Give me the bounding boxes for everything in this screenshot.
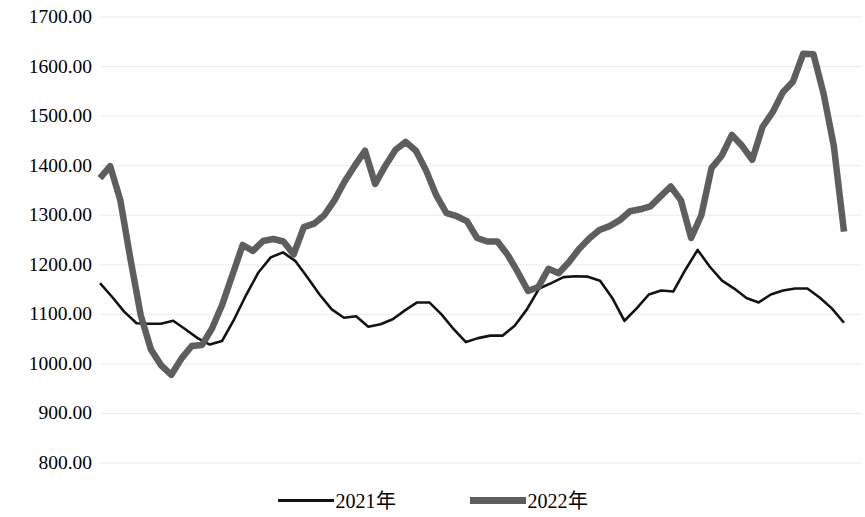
legend-item-2022[interactable]: 2022年 <box>470 491 588 511</box>
legend-line-icon-2021 <box>278 499 334 502</box>
y-axis-label: 1600.00 <box>6 57 92 77</box>
series-lines <box>100 54 844 375</box>
y-axis-label: 1100.00 <box>6 304 92 324</box>
y-axis-label: 900.00 <box>6 403 92 423</box>
legend-label-2022: 2022年 <box>528 491 588 511</box>
chart-legend: 2021年 2022年 <box>0 484 865 517</box>
legend-label-2021: 2021年 <box>336 491 396 511</box>
series-line-2022 <box>100 54 844 375</box>
y-axis-label: 1000.00 <box>6 354 92 374</box>
line-chart: 1700.001600.001500.001400.001300.001200.… <box>0 0 865 517</box>
legend-item-2021[interactable]: 2021年 <box>278 491 396 511</box>
y-axis-label: 1500.00 <box>6 106 92 126</box>
y-axis-label: 1300.00 <box>6 205 92 225</box>
legend-line-icon-2022 <box>470 497 526 504</box>
y-axis-label: 1200.00 <box>6 255 92 275</box>
y-axis-tick-labels: 1700.001600.001500.001400.001300.001200.… <box>0 0 92 480</box>
y-axis-label: 800.00 <box>6 453 92 473</box>
plot-area <box>0 0 865 517</box>
y-axis-label: 1400.00 <box>6 156 92 176</box>
y-axis-label: 1700.00 <box>6 7 92 27</box>
